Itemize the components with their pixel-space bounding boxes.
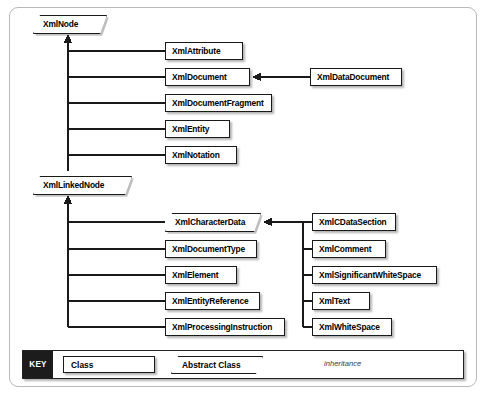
- class-node-xmlnotation[interactable]: XmlNotation: [165, 146, 237, 164]
- class-node-xmlnode[interactable]: XmlNode: [33, 15, 107, 34]
- legend-inheritance-label: inheritance: [324, 359, 361, 368]
- class-node-label: XmlEntity: [166, 125, 215, 133]
- class-node-xmlcomment[interactable]: XmlComment: [312, 240, 386, 258]
- class-node-label: XmlComment: [313, 245, 377, 253]
- class-node-label: XmlSignificantWhiteSpace: [313, 271, 427, 279]
- class-node-label: XmlCDataSection: [313, 218, 393, 226]
- class-node-xmlwhitespace[interactable]: XmlWhiteSpace: [312, 318, 392, 336]
- class-node-xmldocumentfragment[interactable]: XmlDocumentFragment: [165, 94, 272, 112]
- class-node-label: XmlLinkedNode: [33, 181, 110, 189]
- class-diagram: XmlNode XmlLinkedNode XmlCharacterData X…: [0, 0, 493, 400]
- class-node-xmlattribute[interactable]: XmlAttribute: [165, 42, 243, 60]
- legend-key-badge: KEY: [23, 351, 53, 378]
- legend-abstract-label: Abstract Class: [171, 356, 263, 374]
- class-node-xmldatadocument[interactable]: XmlDataDocument: [310, 68, 402, 86]
- legend-class-label: Class: [64, 360, 93, 370]
- class-node-xmlsignificantwhitespace[interactable]: XmlSignificantWhiteSpace: [312, 266, 437, 284]
- legend: KEY Class Abstract Class inheritance: [22, 350, 464, 379]
- class-node-xmlcdatasection[interactable]: XmlCDataSection: [312, 213, 396, 231]
- class-node-label: XmlText: [313, 297, 356, 305]
- class-node-label: XmlDocument: [166, 73, 233, 81]
- class-node-label: XmlDataDocument: [311, 73, 395, 81]
- class-node-label: XmlAttribute: [166, 47, 226, 55]
- class-node-xmllinkednode[interactable]: XmlLinkedNode: [33, 176, 132, 195]
- class-node-label: XmlProcessingInstruction: [166, 323, 278, 331]
- class-node-xmldocument[interactable]: XmlDocument: [165, 68, 250, 86]
- legend-abstract-swatch: Abstract Class: [171, 356, 263, 374]
- class-node-label: XmlEntityReference: [166, 297, 254, 305]
- class-node-label: XmlNode: [33, 20, 84, 28]
- class-node-label: XmlDocumentFragment: [166, 99, 270, 107]
- class-node-label: XmlDocumentType: [166, 245, 251, 253]
- class-node-label: XmlElement: [166, 271, 224, 279]
- class-node-label: XmlNotation: [166, 151, 226, 159]
- class-node-xmltext[interactable]: XmlText: [312, 292, 370, 310]
- class-node-xmlentity[interactable]: XmlEntity: [165, 120, 230, 138]
- class-node-xmlcharacterdata[interactable]: XmlCharacterData: [165, 213, 261, 232]
- class-node-xmlentityreference[interactable]: XmlEntityReference: [165, 292, 260, 310]
- class-node-xmlelement[interactable]: XmlElement: [165, 266, 237, 284]
- class-node-label: XmlWhiteSpace: [313, 323, 386, 331]
- class-node-xmldocumenttype[interactable]: XmlDocumentType: [165, 240, 257, 258]
- class-node-label: XmlCharacterData: [165, 218, 251, 226]
- legend-class-swatch: Class: [63, 356, 155, 373]
- class-node-xmlprocessinginstruction[interactable]: XmlProcessingInstruction: [165, 318, 285, 336]
